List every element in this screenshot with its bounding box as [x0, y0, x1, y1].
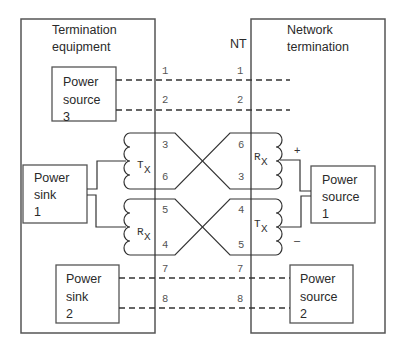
right-pin-6: 6 — [238, 139, 244, 151]
right-tx-sub: X — [261, 223, 268, 235]
power-source-3-label-3: 3 — [63, 110, 70, 124]
power-source-1-label-2: source — [322, 190, 360, 204]
source1-lead-plus — [280, 160, 311, 191]
power-sink-1-label-3: 1 — [34, 205, 41, 219]
left-rx-label: R — [137, 226, 144, 238]
left-pin-1: 1 — [162, 65, 168, 77]
termination-equipment-title: Termination — [52, 23, 117, 37]
left-tx-label: T — [137, 159, 144, 171]
right-pin-7: 7 — [237, 263, 243, 275]
power-source-1-label-3: 1 — [322, 207, 329, 221]
right-pin-3: 3 — [238, 171, 244, 183]
network-termination-title-2: termination — [287, 40, 349, 54]
minus-sign: – — [294, 234, 301, 246]
right-pin-1: 1 — [237, 65, 243, 77]
left-pin-2: 2 — [162, 94, 168, 106]
sink1-lead-top — [87, 161, 126, 189]
right-pin-8: 8 — [237, 293, 243, 305]
power-sink-2-label-2: sink — [66, 290, 89, 304]
left-pin-5: 5 — [162, 204, 168, 216]
power-sink-2-label: Power — [66, 272, 101, 286]
power-sink-2-label-3: 2 — [66, 307, 73, 321]
sink1-lead-bottom — [87, 195, 126, 227]
termination-equipment-title-2: equipment — [52, 40, 111, 54]
left-pin-3: 3 — [162, 139, 168, 151]
network-termination-title: Network — [287, 23, 334, 37]
power-source-2-label-2: source — [300, 290, 338, 304]
left-pin-7: 7 — [162, 263, 168, 275]
left-tx-sub: X — [144, 164, 151, 176]
poe-wiring-diagram: Termination equipment Network terminatio… — [0, 0, 400, 351]
right-tx-label: T — [254, 218, 261, 230]
left-pin-8: 8 — [162, 293, 168, 305]
right-rx-sub: X — [261, 156, 268, 168]
right-rx-label: R — [254, 151, 261, 163]
power-source-1-label: Power — [322, 173, 357, 187]
source1-lead-minus — [280, 196, 311, 227]
power-source-2-label-3: 2 — [300, 307, 307, 321]
power-source-3-label: Power — [63, 75, 98, 89]
power-source-2-label: Power — [300, 272, 335, 286]
power-source-3-label-2: source — [63, 93, 101, 107]
right-pin-4: 4 — [238, 204, 244, 216]
power-sink-1-label-2: sink — [34, 188, 57, 202]
left-pin-6: 6 — [162, 171, 168, 183]
right-pin-2: 2 — [237, 94, 243, 106]
right-pin-5: 5 — [238, 239, 244, 251]
left-rx-sub: X — [144, 231, 151, 243]
nt-label: NT — [230, 37, 247, 51]
plus-sign: + — [294, 144, 300, 156]
left-pin-4: 4 — [162, 239, 168, 251]
power-sink-1-label: Power — [34, 171, 69, 185]
